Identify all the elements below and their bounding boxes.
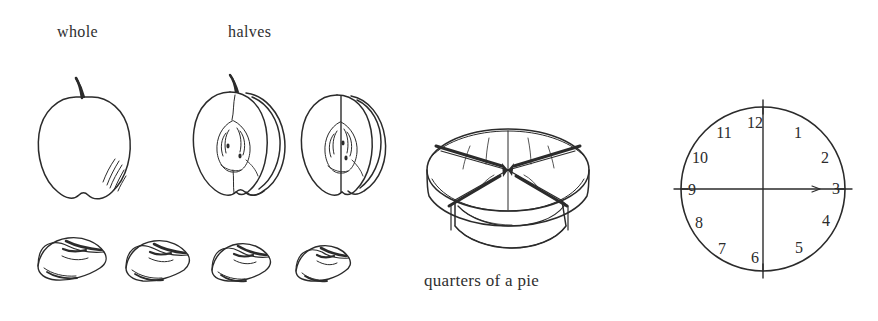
clock-number-10: 10 <box>692 149 708 166</box>
clock-number-9: 9 <box>688 181 696 198</box>
line-art-canvas: 12 1 2 3 4 5 6 7 8 9 10 11 <box>0 0 878 321</box>
clock-number-3: 3 <box>832 180 840 197</box>
apple-quarter-wedge-1 <box>38 238 106 280</box>
clock-number-4: 4 <box>822 212 830 229</box>
apple-half-drawing-right <box>301 95 385 195</box>
clock-number-8: 8 <box>695 214 703 231</box>
clock-number-1: 1 <box>794 124 802 141</box>
pie-cut-into-quarters-drawing <box>427 129 589 248</box>
clock-number-7: 7 <box>718 240 726 257</box>
whole-apple-drawing <box>38 78 130 199</box>
clock-number-12: 12 <box>747 114 763 131</box>
apple-quarter-wedge-2 <box>126 241 189 281</box>
clock-face-divided-into-quarters <box>674 100 852 278</box>
clock-number-5: 5 <box>795 239 803 256</box>
apple-and-pie-fractions-illustration: whole halves quarters of a pie <box>0 0 878 321</box>
apple-half-drawing-left <box>193 75 285 195</box>
clock-number-6: 6 <box>751 249 759 266</box>
clock-number-11: 11 <box>716 124 731 141</box>
clock-number-2: 2 <box>821 149 829 166</box>
apple-quarter-wedge-3 <box>212 244 270 282</box>
apple-quarter-wedge-4 <box>296 246 350 282</box>
